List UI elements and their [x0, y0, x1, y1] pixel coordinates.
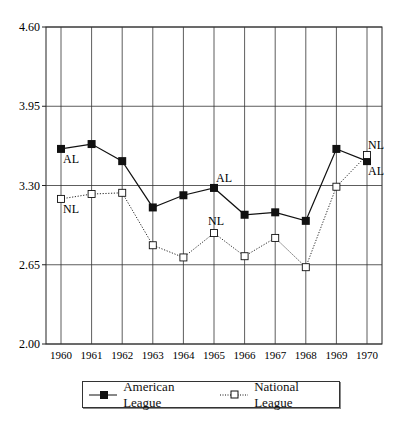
data-point-marker: [88, 140, 96, 148]
x-tick-label: 1969: [325, 349, 348, 361]
y-tick-label: 2.00: [19, 337, 40, 351]
data-point-marker: [88, 191, 95, 198]
data-point-marker: [149, 242, 156, 249]
y-tick-label: 2.65: [19, 258, 40, 272]
line-chart: 2.002.653.303.954.6019601961196219631964…: [0, 0, 401, 380]
legend-label-american-league: American League: [123, 379, 210, 411]
open-square-marker-icon: [220, 390, 248, 400]
data-point-marker: [302, 217, 310, 225]
data-point-marker: [118, 157, 126, 165]
x-tick-label: 1968: [295, 349, 318, 361]
data-point-marker: [241, 253, 248, 260]
data-point-marker: [272, 234, 279, 241]
series-annotation: NL: [208, 214, 224, 228]
data-point-marker: [179, 191, 187, 199]
series-annotation: NL: [63, 202, 79, 216]
x-tick-label: 1964: [172, 349, 195, 361]
x-tick-label: 1966: [234, 349, 257, 361]
x-tick-label: 1963: [142, 349, 165, 361]
chart-legend: American League National League: [82, 381, 340, 408]
series-annotation: AL: [216, 171, 232, 185]
data-point-marker: [333, 183, 340, 190]
filled-square-marker-icon: [89, 390, 117, 400]
data-point-marker: [210, 184, 218, 192]
data-point-marker: [271, 208, 279, 216]
x-tick-label: 1962: [111, 349, 133, 361]
series-annotation: AL: [368, 164, 384, 178]
series-annotation: NL: [368, 138, 384, 152]
data-point-marker: [332, 145, 340, 153]
data-point-marker: [302, 264, 309, 271]
x-tick-label: 1965: [203, 349, 226, 361]
x-tick-label: 1970: [356, 349, 379, 361]
legend-item-american-league: American League: [89, 379, 214, 411]
data-point-marker: [241, 211, 249, 219]
legend-item-national-league: National League: [220, 379, 339, 411]
data-point-marker: [211, 230, 218, 237]
x-tick-label: 1961: [81, 349, 103, 361]
data-point-marker: [364, 152, 371, 159]
y-tick-label: 3.95: [19, 99, 40, 113]
y-tick-label: 4.60: [19, 20, 40, 34]
series-annotation: AL: [63, 152, 79, 166]
legend-label-national-league: National League: [254, 379, 335, 411]
data-point-marker: [149, 203, 157, 211]
x-tick-label: 1960: [50, 349, 73, 361]
data-point-marker: [119, 189, 126, 196]
y-tick-label: 3.30: [19, 179, 40, 193]
data-point-marker: [180, 254, 187, 261]
x-tick-label: 1967: [264, 349, 287, 361]
